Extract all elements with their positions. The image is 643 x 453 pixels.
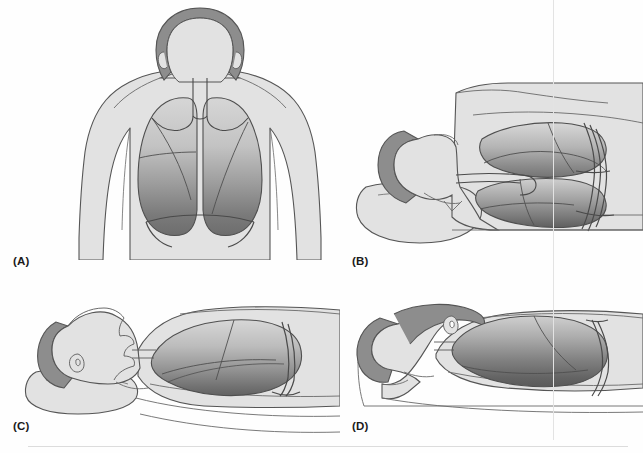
panel-b-supine-axial: [348, 75, 643, 260]
panel-d-prone: [348, 288, 643, 438]
scan-vertical-line: [553, 0, 554, 440]
panel-label-d: (D): [352, 421, 369, 433]
scan-horizontal-rule: [28, 446, 628, 447]
medical-figure: (A): [0, 0, 643, 453]
panel-label-b: (B): [352, 256, 369, 268]
panel-label-a: (A): [13, 256, 30, 268]
panel-label-c: (C): [13, 421, 30, 433]
panel-a-upright: [60, 0, 340, 260]
panel-c-supine-lateral: [20, 288, 340, 438]
head: [38, 308, 148, 389]
head: [156, 8, 244, 82]
